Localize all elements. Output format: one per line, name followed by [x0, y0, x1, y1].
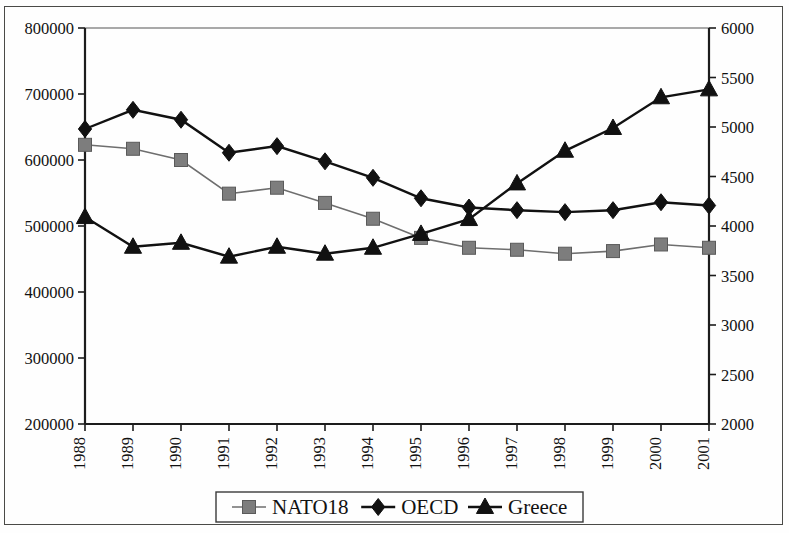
y-axis-tick-label-left: 600000 — [25, 151, 75, 170]
data-point-nato18 — [511, 243, 524, 256]
y-axis-tick-label-right: 3000 — [721, 316, 754, 335]
y-axis-tick-label-right: 3500 — [721, 267, 754, 286]
y-axis-tick-label-right: 4500 — [721, 168, 754, 187]
data-point-oecd — [414, 190, 427, 207]
chart-page: 2000003000004000005000006000007000008000… — [0, 0, 789, 533]
data-point-nato18 — [463, 241, 476, 254]
legend-marker-square-icon — [243, 501, 256, 514]
data-point-nato18 — [175, 154, 188, 167]
x-axis-tick-label: 1988 — [70, 437, 89, 470]
y-axis-tick-label-right: 5000 — [721, 118, 754, 137]
y-axis-tick-label-right: 2000 — [721, 415, 754, 434]
series-greece — [76, 80, 717, 263]
legend-label-nato18: NATO18 — [272, 495, 349, 519]
data-point-oecd — [702, 197, 715, 214]
data-point-oecd — [126, 101, 139, 118]
x-axis-tick-label: 1996 — [454, 437, 473, 470]
y-axis-tick-label-right: 2500 — [721, 366, 754, 385]
data-point-nato18 — [223, 187, 236, 200]
y-axis-tick-label-left: 400000 — [25, 283, 75, 302]
data-point-nato18 — [271, 181, 284, 194]
x-axis-tick-label: 1999 — [598, 437, 617, 470]
data-point-greece — [604, 119, 621, 134]
data-point-greece — [268, 238, 285, 253]
data-point-greece — [460, 210, 477, 225]
legend-label-greece: Greece — [508, 495, 567, 519]
data-point-oecd — [606, 202, 619, 219]
data-point-greece — [76, 208, 93, 223]
x-axis-tick-label: 1989 — [118, 437, 137, 470]
data-point-oecd — [318, 153, 331, 170]
data-point-nato18 — [655, 238, 668, 251]
x-axis-tick-label: 1993 — [310, 437, 329, 470]
data-point-nato18 — [367, 212, 380, 225]
data-point-oecd — [270, 138, 283, 155]
data-point-oecd — [654, 194, 667, 211]
y-axis-tick-label-right: 5500 — [721, 69, 754, 88]
y-axis-tick-label-left: 500000 — [25, 217, 75, 236]
chart-legend: NATO18OECDGreece — [216, 492, 583, 522]
data-point-greece — [700, 80, 717, 95]
x-axis-tick-label: 1997 — [502, 437, 521, 470]
data-point-nato18 — [703, 241, 716, 254]
x-axis-tick-label: 1992 — [262, 437, 281, 470]
data-point-oecd — [78, 120, 91, 137]
data-point-nato18 — [319, 196, 332, 209]
data-point-nato18 — [79, 138, 92, 151]
y-axis-tick-label-left: 700000 — [25, 85, 75, 104]
data-point-greece — [172, 234, 189, 249]
data-point-oecd — [222, 144, 235, 161]
data-point-greece — [508, 174, 525, 189]
x-axis-tick-label: 2000 — [646, 437, 665, 470]
data-point-nato18 — [127, 142, 140, 155]
x-axis-tick-label: 2001 — [694, 437, 713, 470]
y-axis-tick-label-left: 300000 — [25, 349, 75, 368]
x-axis-tick-label: 1990 — [166, 437, 185, 470]
y-axis-tick-label-left: 200000 — [25, 415, 75, 434]
y-axis-tick-label-left: 800000 — [25, 19, 75, 38]
data-point-oecd — [174, 111, 187, 128]
x-axis-tick-label: 1998 — [550, 437, 569, 470]
y-axis-tick-label-right: 6000 — [721, 19, 754, 38]
data-point-oecd — [558, 204, 571, 221]
line-chart: 2000003000004000005000006000007000008000… — [0, 0, 789, 533]
x-axis-tick-label: 1995 — [406, 437, 425, 470]
data-point-oecd — [510, 202, 523, 219]
data-point-nato18 — [559, 247, 572, 260]
x-axis-tick-label: 1994 — [358, 437, 377, 470]
series-oecd — [78, 101, 715, 220]
data-point-oecd — [366, 169, 379, 186]
data-point-nato18 — [607, 245, 620, 258]
x-axis-tick-label: 1991 — [214, 437, 233, 470]
y-axis-tick-label-right: 4000 — [721, 217, 754, 236]
legend-label-oecd: OECD — [401, 495, 458, 519]
chart-svg: 2000003000004000005000006000007000008000… — [0, 0, 789, 533]
data-point-greece — [556, 142, 573, 157]
